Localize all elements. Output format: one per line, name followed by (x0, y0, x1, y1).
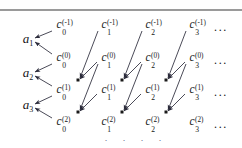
c-node-superscript: (2) (195, 117, 203, 124)
a-node-a3: a3 (23, 98, 34, 113)
c-node-c0_2: c(2)0 (56, 116, 61, 128)
c-node-c0_-1: c(-1)0 (56, 19, 61, 31)
arrow (35, 64, 52, 72)
c-node-c2_1: c(1)2 (145, 84, 150, 96)
c-node-base: c (189, 83, 194, 95)
c-node-superscript: (0) (107, 53, 115, 60)
arrow-junction-dot (165, 79, 168, 82)
c-node-base: c (189, 18, 194, 30)
c-node-subscript: 3 (195, 29, 199, 37)
arrow-junction-dot (77, 111, 80, 114)
c-node-c3_1: c(1)3 (189, 84, 194, 96)
c-node-c0_1: c(1)0 (56, 84, 61, 96)
bottom-continuation-dot: · (141, 135, 144, 145)
c-node-superscript: (-1) (107, 20, 118, 27)
c-node-c1_0: c(0)1 (101, 52, 106, 64)
c-node-base: c (145, 83, 150, 95)
c-node-c3_-1: c(-1)3 (189, 19, 194, 31)
arrow-junction-dot (121, 111, 124, 114)
c-node-base: c (145, 18, 150, 30)
c-node-base: c (101, 83, 106, 95)
arrow (35, 108, 52, 118)
c-node-subscript: 3 (195, 62, 199, 70)
c-node-subscript: 0 (62, 94, 66, 102)
arrow-group (35, 31, 186, 118)
c-node-subscript: 1 (107, 62, 111, 70)
bottom-continuation-dot: · (159, 135, 162, 145)
arrow (35, 31, 52, 38)
c-node-c1_1: c(1)1 (101, 84, 106, 96)
row-ellipsis: ... (214, 85, 228, 100)
bottom-continuation-dot: · (105, 135, 108, 145)
c-node-base: c (56, 18, 61, 30)
a-node-a2: a2 (23, 66, 34, 81)
c-node-c3_0: c(0)3 (189, 52, 194, 64)
arrow (35, 76, 52, 86)
c-node-subscript: 3 (195, 126, 199, 134)
c-node-subscript: 2 (151, 29, 155, 37)
c-node-subscript: 0 (62, 126, 66, 134)
c-node-superscript: (-1) (62, 20, 73, 27)
row-ellipsis: ... (214, 117, 228, 132)
pade-table-diagram: a1a2a3c(-1)0c(-1)1c(-1)2c(-1)3c(0)0c(0)1… (0, 0, 242, 148)
c-node-superscript: (0) (151, 53, 159, 60)
c-node-superscript: (0) (62, 53, 70, 60)
c-node-base: c (56, 83, 61, 95)
c-node-base: c (56, 115, 61, 127)
c-node-c0_0: c(0)0 (56, 52, 61, 64)
c-node-base: c (101, 115, 106, 127)
c-node-subscript: 1 (107, 29, 111, 37)
c-node-superscript: (2) (62, 117, 70, 124)
c-node-base: c (189, 115, 194, 127)
c-node-subscript: 1 (107, 126, 111, 134)
a-node-subscript: 1 (29, 39, 33, 48)
c-node-superscript: (1) (62, 85, 70, 92)
row-ellipsis: ... (214, 20, 228, 35)
c-node-base: c (56, 51, 61, 63)
c-node-c2_2: c(2)2 (145, 116, 150, 128)
c-node-subscript: 2 (151, 126, 155, 134)
c-node-superscript: (2) (107, 117, 115, 124)
c-node-superscript: (1) (151, 85, 159, 92)
c-node-subscript: 0 (62, 29, 66, 37)
c-node-base: c (101, 18, 106, 30)
c-node-superscript: (1) (107, 85, 115, 92)
c-node-c1_2: c(2)1 (101, 116, 106, 128)
arrow (35, 96, 52, 104)
c-node-superscript: (-1) (151, 20, 162, 27)
c-node-subscript: 0 (62, 62, 66, 70)
c-node-c2_0: c(0)2 (145, 52, 150, 64)
c-node-c3_2: c(2)3 (189, 116, 194, 128)
c-node-base: c (101, 51, 106, 63)
c-node-base: c (189, 51, 194, 63)
arrow-junction-dot (165, 111, 168, 114)
c-node-c1_-1: c(-1)1 (101, 19, 106, 31)
c-node-base: c (145, 51, 150, 63)
c-node-subscript: 3 (195, 94, 199, 102)
c-node-subscript: 1 (107, 94, 111, 102)
c-node-subscript: 2 (151, 94, 155, 102)
a-node-a1: a1 (23, 32, 34, 47)
a-node-subscript: 3 (29, 105, 33, 114)
c-node-superscript: (0) (195, 53, 203, 60)
arrow (35, 42, 52, 54)
c-node-base: c (145, 115, 150, 127)
row-ellipsis: ... (214, 53, 228, 68)
a-node-subscript: 2 (29, 73, 33, 82)
c-node-c2_-1: c(-1)2 (145, 19, 150, 31)
bottom-continuation-dot: · (123, 135, 126, 145)
arrow-junction-dot (77, 79, 80, 82)
arrow-junction-dot (121, 79, 124, 82)
c-node-superscript: (1) (195, 85, 203, 92)
c-node-subscript: 2 (151, 62, 155, 70)
c-node-superscript: (-1) (195, 20, 206, 27)
c-node-superscript: (2) (151, 117, 159, 124)
